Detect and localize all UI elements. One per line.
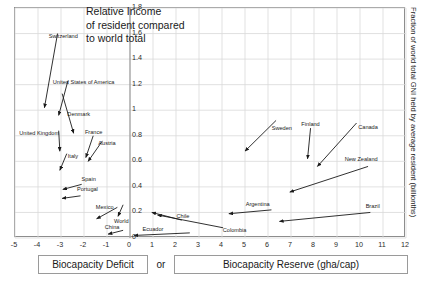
- x-tick-label: 2: [173, 241, 177, 249]
- y-tick-label: 0.8: [132, 131, 142, 139]
- country-label-colombia: Colombia: [223, 227, 247, 233]
- x-tick-label: 11: [378, 241, 385, 249]
- country-label-ecuador: Ecuador: [143, 226, 164, 232]
- chart-title: Relative Income of resident compared to …: [86, 5, 236, 46]
- x-tick-label: 6: [265, 241, 269, 249]
- x-tick-label: 12: [401, 241, 409, 249]
- country-label-united-states-of-america: United States of America: [53, 79, 115, 85]
- right-axis-label-text: Fraction of world total GNI held by aver…: [409, 7, 418, 217]
- x-tick-label: 1: [150, 241, 154, 249]
- country-label-canada: Canada: [358, 124, 378, 130]
- y-tick-label: 0.2: [132, 207, 142, 215]
- x-tick-label: -1: [103, 241, 109, 249]
- x-tick-label: 5: [242, 241, 246, 249]
- x-axis-legend-bar: Biocapacity Deficit or Biocapacity Reser…: [38, 255, 408, 274]
- x-tick-label: 7: [288, 241, 292, 249]
- country-label-switzerland: Switzerland: [49, 33, 78, 39]
- biocapacity-reserve-box: Biocapacity Reserve (gha/cap): [174, 255, 408, 274]
- country-label-brazil: Brazil: [366, 203, 380, 209]
- country-label-argentina: Argentina: [246, 201, 270, 207]
- right-axis-label: Fraction of world total GNI held by aver…: [409, 7, 423, 237]
- y-tick-label: 0.4: [132, 182, 142, 190]
- y-tick-label: 1.4: [132, 54, 142, 62]
- x-tick-label: -3: [57, 241, 63, 249]
- country-label-france: France: [85, 129, 102, 135]
- y-tick-label: 0.6: [132, 156, 142, 164]
- country-label-mexico: Mexico: [96, 204, 114, 210]
- y-tick-label: 1.8: [132, 3, 142, 11]
- x-tick-label: -2: [80, 241, 86, 249]
- y-tick-label: 0: [132, 233, 136, 241]
- country-label-portugal: Portugal: [77, 186, 98, 192]
- country-label-denmark: Denmark: [67, 111, 90, 117]
- country-label-united-kingdom: United Kingdom: [19, 130, 59, 136]
- country-label-finland: Finland: [301, 121, 319, 127]
- y-tick-label: 1.6: [132, 29, 142, 37]
- x-tick-label: -4: [34, 241, 40, 249]
- x-tick-label: 8: [311, 241, 315, 249]
- country-label-china: China: [105, 224, 120, 230]
- x-tick-label: 10: [355, 241, 363, 249]
- biocapacity-deficit-box: Biocapacity Deficit: [38, 255, 148, 274]
- country-label-chile: Chile: [177, 213, 190, 219]
- x-tick-label: -5: [11, 241, 17, 249]
- x-tick-label: 0: [127, 241, 131, 249]
- x-tick-label: 3: [196, 241, 200, 249]
- country-label-new-zealand: New Zealand: [345, 156, 378, 162]
- country-label-italy: Italy: [68, 153, 78, 159]
- y-tick-label: 1.2: [132, 80, 142, 88]
- relative-income-vs-biocapacity-chart: SwitzerlandUnited States of AmericaDenma…: [0, 0, 436, 285]
- country-label-austria: Austria: [98, 140, 115, 146]
- y-tick-label: 1: [132, 105, 136, 113]
- legend-conjunction: or: [148, 255, 174, 274]
- country-label-sweden: Sweden: [272, 125, 292, 131]
- x-tick-label: 9: [334, 241, 338, 249]
- country-label-spain: Spain: [81, 176, 95, 182]
- x-tick-label: 4: [219, 241, 223, 249]
